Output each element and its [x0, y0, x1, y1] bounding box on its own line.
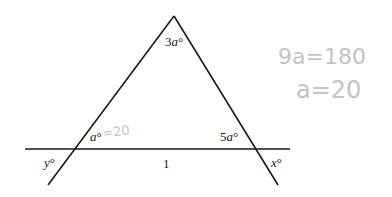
triangle-figure: 3a° a° =20 5a° y° 1 x° 9a=180 a=20 [0, 0, 392, 197]
base-length-label: 1 [163, 156, 170, 171]
right-exterior-angle-label: x° [270, 155, 282, 170]
left-exterior-angle-label: y° [42, 155, 55, 170]
left-base-angle-label: a° [90, 129, 102, 144]
right-base-angle-label: 5a° [220, 129, 238, 144]
handwritten-equation-2: a=20 [296, 76, 361, 104]
apex-angle-label: 3a° [165, 34, 183, 49]
right-transversal-line [174, 16, 278, 185]
handwritten-equation-1: 9a=180 [278, 44, 366, 69]
left-transversal-line [48, 16, 174, 185]
handwritten-angle-note: =20 [101, 122, 130, 141]
diagram-canvas: 3a° a° =20 5a° y° 1 x° 9a=180 a=20 [0, 0, 392, 197]
